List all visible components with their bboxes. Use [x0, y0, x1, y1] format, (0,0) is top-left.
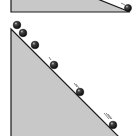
main-incline [11, 21, 119, 136]
motion-line [121, 3, 125, 5]
ball-icon [19, 29, 27, 37]
ball-icon [76, 88, 84, 96]
top-incline-plane [11, 0, 130, 12]
inclined-plane-diagram [0, 0, 138, 136]
top-incline [11, 0, 132, 12]
motion-line [49, 57, 51, 60]
main-incline-plane [11, 29, 119, 136]
ball-icon [50, 61, 58, 69]
ball-icon [109, 121, 117, 129]
ball-icon [31, 41, 39, 49]
ball-icon [13, 21, 21, 29]
ball-icon [125, 5, 132, 12]
top-motion-marks [121, 3, 125, 5]
